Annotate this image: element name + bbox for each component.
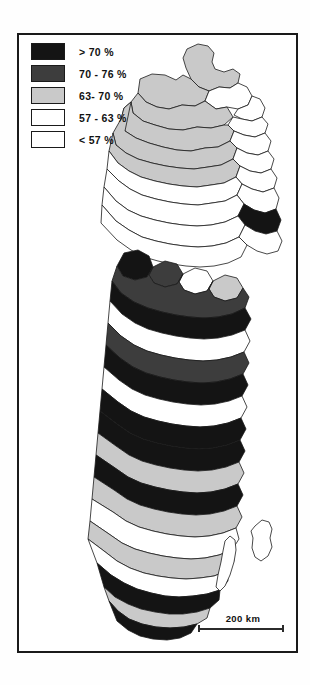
scale-bar-label: 200 km (198, 613, 288, 624)
map-frame: > 70 % 70 - 76 % 63- 70 % 57 - 63 % < 57… (17, 33, 298, 653)
scale-bar-tick-end (282, 625, 284, 632)
legend-item: 63- 70 % (31, 87, 166, 104)
legend-item: < 57 % (31, 131, 166, 148)
legend-swatch-black (31, 43, 65, 60)
scale-bar-line (198, 625, 288, 632)
legend-label: 57 - 63 % (79, 112, 127, 124)
legend-label: < 57 % (79, 134, 114, 146)
legend-label: 70 - 76 % (79, 68, 127, 80)
legend-swatch-dark-gray (31, 65, 65, 82)
legend-swatch-light-gray (31, 87, 65, 104)
legend-label: 63- 70 % (79, 90, 123, 102)
map-region (251, 520, 272, 561)
scale-bar-tick-start (198, 625, 200, 632)
scale-bar-rule (198, 628, 284, 630)
legend-item: 57 - 63 % (31, 109, 166, 126)
legend-item: > 70 % (31, 43, 166, 60)
legend-swatch-white (31, 109, 65, 126)
legend: > 70 % 70 - 76 % 63- 70 % 57 - 63 % < 57… (31, 43, 166, 153)
figure-root: > 70 % 70 - 76 % 63- 70 % 57 - 63 % < 57… (0, 0, 310, 685)
legend-item: 70 - 76 % (31, 65, 166, 82)
scale-bar: 200 km (198, 613, 288, 632)
legend-label: > 70 % (79, 46, 114, 58)
legend-swatch-white (31, 131, 65, 148)
